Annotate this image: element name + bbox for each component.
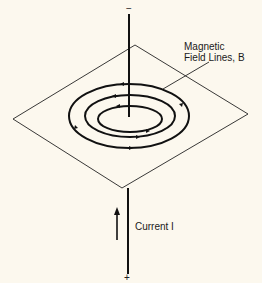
current-label: Current I bbox=[135, 221, 174, 232]
plane bbox=[13, 45, 248, 188]
current-arrow-head bbox=[114, 207, 120, 215]
diagram-canvas: − + Magnetic Field Lines, B Current I bbox=[0, 0, 262, 283]
field-label-line2: Field Lines, B bbox=[184, 52, 245, 63]
field-label-line1: Magnetic bbox=[184, 41, 225, 52]
polarity-minus: − bbox=[126, 4, 132, 14]
polarity-plus: + bbox=[124, 273, 130, 283]
